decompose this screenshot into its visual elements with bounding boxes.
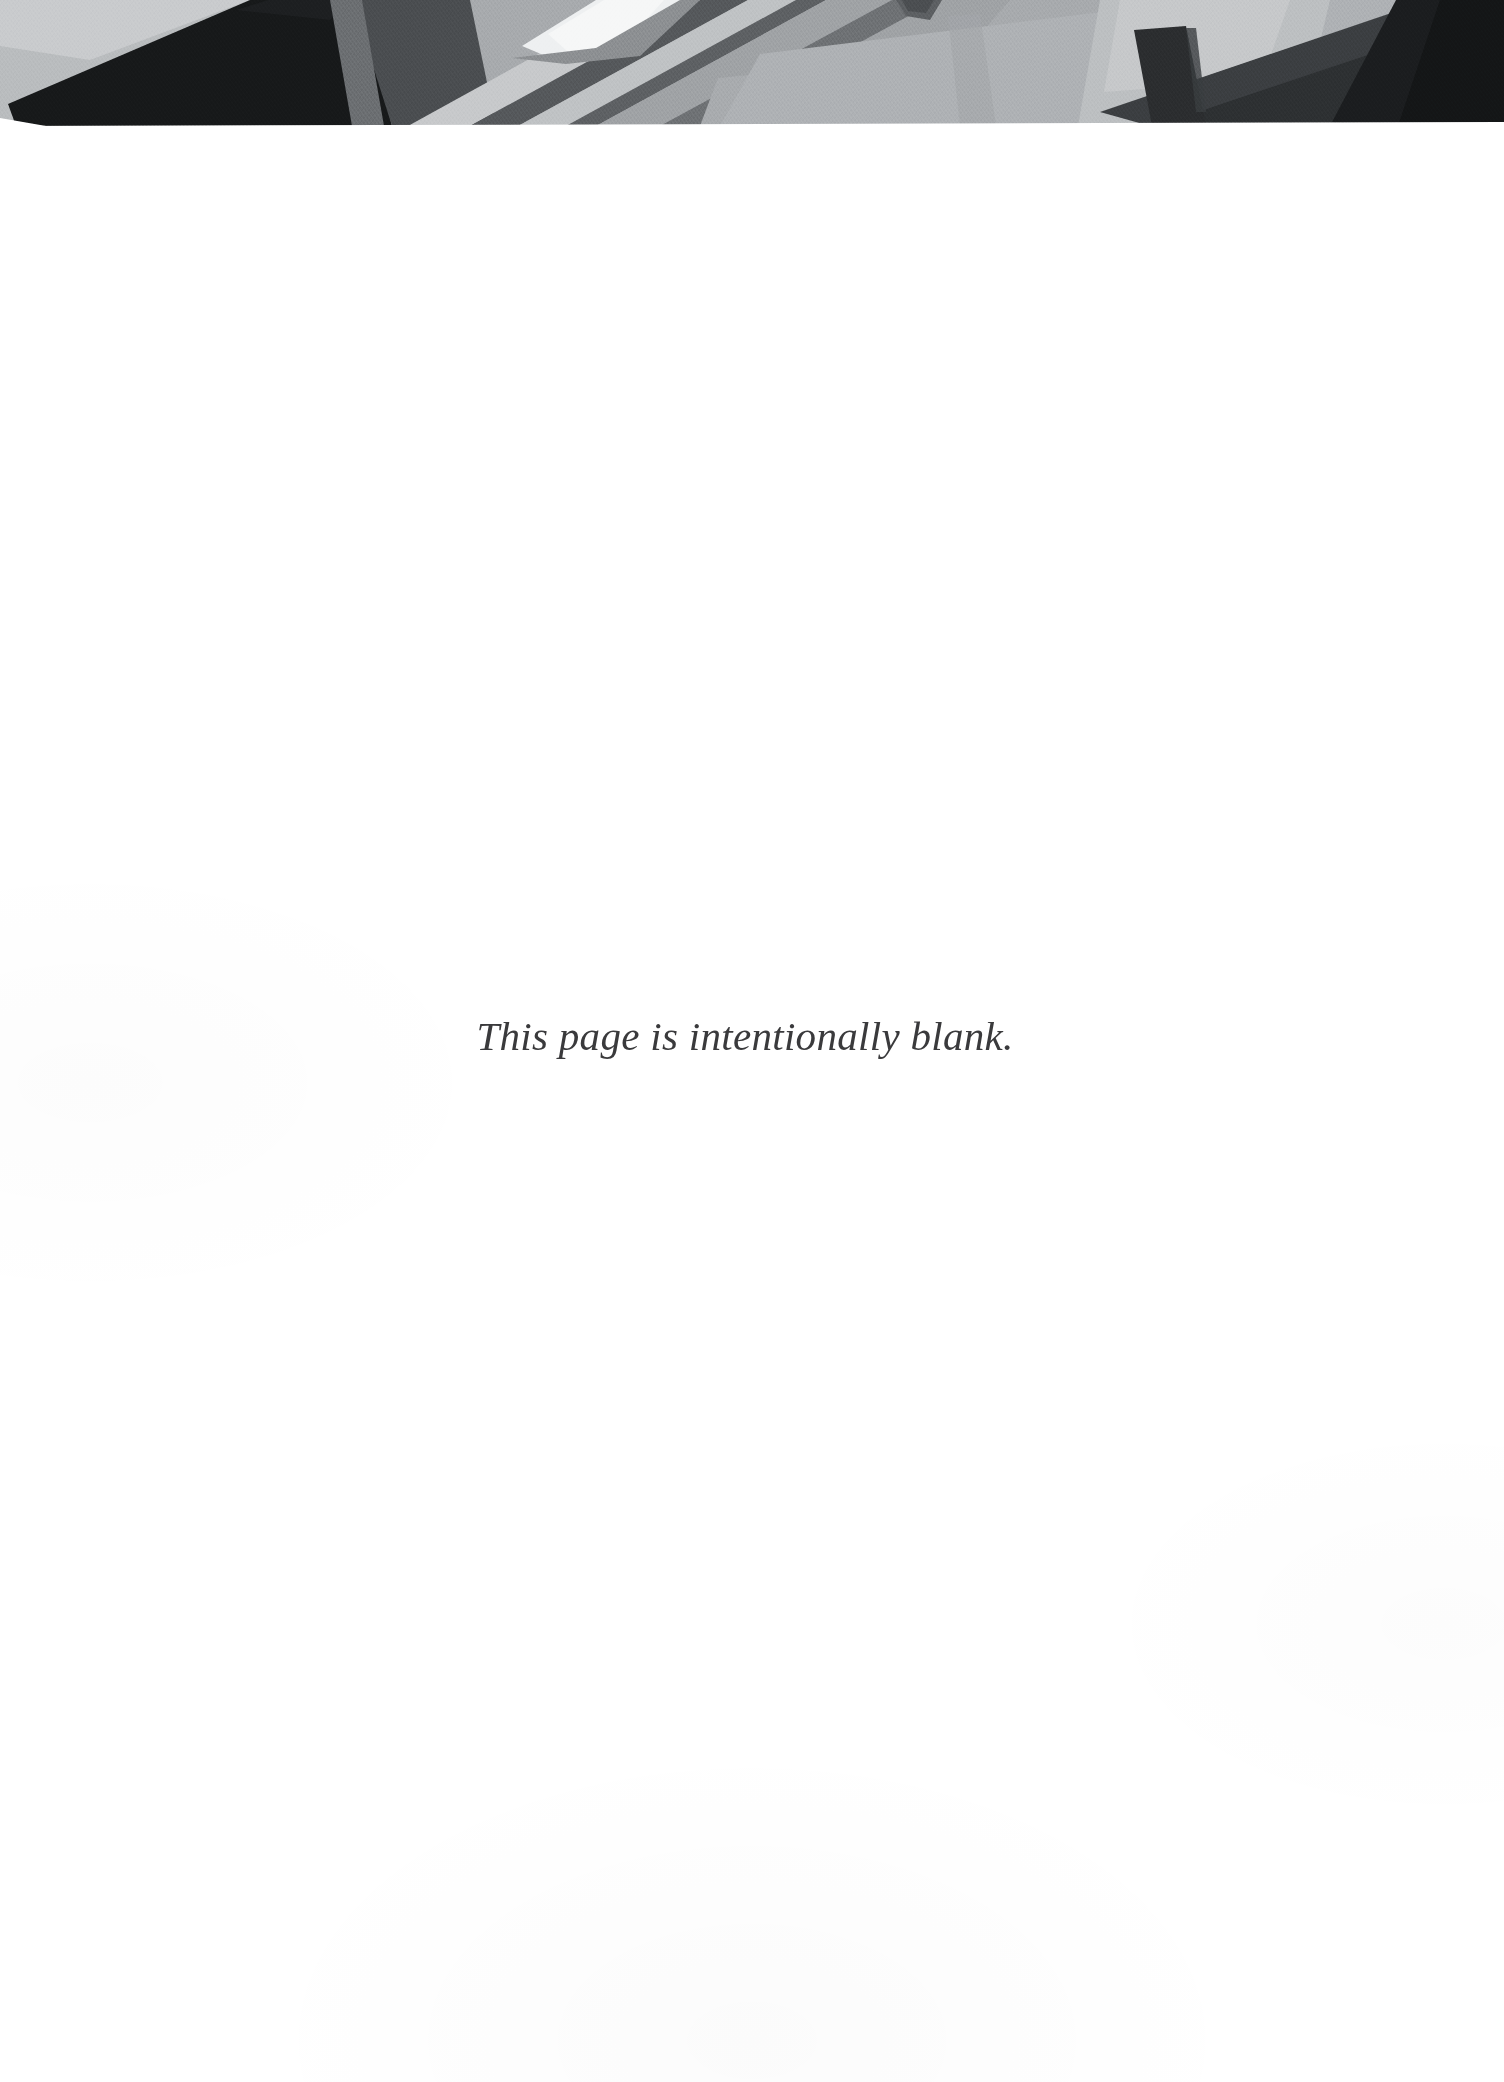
page-sheet: This page is intentionally blank.	[0, 0, 1504, 2082]
decorative-header-band	[0, 0, 1504, 136]
header-artwork-svg	[0, 0, 1504, 136]
blank-page-notice: This page is intentionally blank.	[0, 1012, 1504, 1060]
blank-page-notice-text: This page is intentionally blank.	[476, 1012, 1013, 1060]
